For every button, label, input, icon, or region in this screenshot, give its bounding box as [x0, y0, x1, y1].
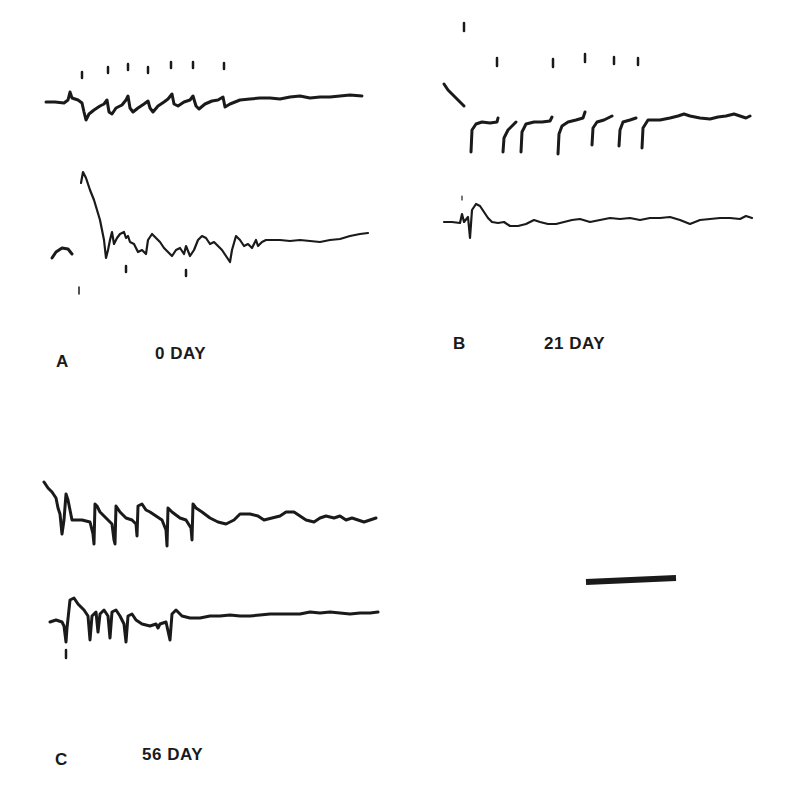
- panel-a-upper-trace: [46, 92, 362, 120]
- panel-b-upper-trace-initial: [444, 84, 464, 106]
- panel-b-title: 21 DAY: [544, 334, 605, 354]
- panel-c-letter: C: [55, 750, 67, 770]
- panel-c-title: 56 DAY: [142, 745, 203, 765]
- panel-b-letter: B: [453, 334, 465, 354]
- figure: A 0 DAY B 21 DAY C 56 DAY: [0, 0, 788, 808]
- panel-b-lower-trace: [444, 204, 752, 238]
- panel-a-lower-trace-response: [81, 172, 368, 262]
- panel-a-letter: A: [56, 352, 68, 372]
- panel-a-stimulus-ticks: [82, 62, 224, 78]
- panel-a-title: 0 DAY: [155, 344, 206, 364]
- panel-b-stimulus-ticks: [464, 23, 638, 67]
- panel-b-upper-trace: [471, 112, 750, 154]
- panel-a-lower-trace: [52, 248, 72, 258]
- traces-canvas: [0, 0, 788, 808]
- panel-c-upper-trace: [44, 482, 376, 546]
- panel-c-lower-trace: [50, 598, 378, 642]
- scale-bar: [586, 578, 676, 582]
